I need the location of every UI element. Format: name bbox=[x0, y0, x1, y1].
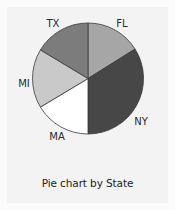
label-ny: NY bbox=[134, 116, 148, 127]
pie-slices bbox=[33, 23, 144, 134]
chart-title: Pie chart by State bbox=[0, 177, 175, 189]
chart-frame: TX FL MI NY MA Pie chart by State bbox=[0, 0, 175, 210]
label-mi: MI bbox=[18, 78, 30, 89]
label-tx: TX bbox=[46, 18, 60, 29]
label-fl: FL bbox=[116, 18, 128, 29]
label-ma: MA bbox=[49, 131, 65, 142]
